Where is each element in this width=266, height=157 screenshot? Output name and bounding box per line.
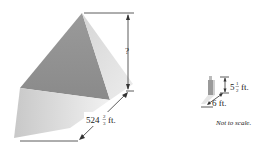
person-height-label: 5	[230, 82, 235, 92]
diagram: ? 524 2 3 ft. 5 1 2 ft.	[0, 0, 266, 157]
person-height-fraction-numerator: 1	[236, 81, 239, 86]
person-height-dimension: 5 1 2 ft.	[220, 77, 249, 93]
person-height-unit: ft.	[241, 82, 249, 92]
pyramid-base-label: 524	[86, 115, 100, 125]
person-shadow-label: 6 ft.	[212, 98, 227, 108]
person-height-fraction-denominator: 2	[236, 88, 239, 93]
pyramid-base-unit: ft.	[108, 115, 116, 125]
person-figure	[208, 80, 213, 95]
not-to-scale-note: Not to scale.	[215, 119, 251, 127]
pyramid-height-label: ?	[125, 46, 129, 56]
